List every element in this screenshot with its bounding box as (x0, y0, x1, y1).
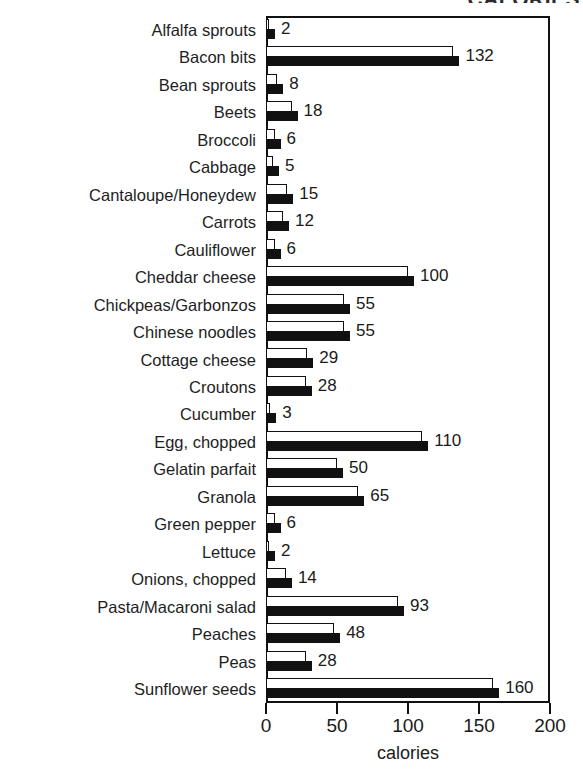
bar-value-label: 48 (346, 624, 365, 641)
bar-value-label: 5 (285, 157, 294, 174)
bar-group: 15 (266, 181, 550, 208)
bar-solid (266, 358, 313, 368)
bar-solid (266, 29, 275, 39)
bar-solid (266, 276, 414, 286)
bar-solid (266, 688, 499, 698)
bar-value-label: 6 (287, 240, 296, 257)
category-label: Onions, chopped (0, 571, 260, 588)
category-label: Cabbage (0, 159, 260, 176)
bar-solid (266, 633, 340, 643)
bar-solid (266, 606, 404, 616)
bar-group: 6 (266, 511, 550, 538)
bar-solid (266, 56, 459, 66)
bar-solid (266, 166, 279, 176)
bar-group: 110 (266, 428, 550, 455)
bar-value-label: 93 (410, 597, 429, 614)
category-label: Bean sprouts (0, 77, 260, 94)
bar-solid (266, 523, 281, 533)
category-label: Lettuce (0, 544, 260, 561)
bar-value-label: 3 (282, 404, 291, 421)
bar-value-label: 160 (505, 679, 533, 696)
bar-group: 55 (266, 291, 550, 318)
bar-group: 8 (266, 71, 550, 98)
category-label: Bacon bits (0, 49, 260, 66)
chart-page: CALORIES Alfalfa sproutsBacon bitsBean s… (0, 0, 583, 769)
bar-solid (266, 441, 428, 451)
bar-value-label: 2 (281, 542, 290, 559)
bar-value-label: 8 (289, 75, 298, 92)
category-label: Alfalfa sprouts (0, 22, 260, 39)
bar-solid (266, 84, 283, 94)
bar-value-label: 6 (287, 130, 296, 147)
bar-solid (266, 194, 293, 204)
category-label: Sunflower seeds (0, 681, 260, 698)
bar-group: 28 (266, 648, 550, 675)
category-label: Cantaloupe/Honeydew (0, 187, 260, 204)
chart-title-cropped: CALORIES (380, 0, 580, 3)
bar-group: 65 (266, 483, 550, 510)
bar-solid (266, 468, 343, 478)
bar-solid (266, 661, 312, 671)
category-label: Cottage cheese (0, 352, 260, 369)
x-axis-title: calories (266, 744, 550, 762)
bar-group: 12 (266, 208, 550, 235)
category-label: Broccoli (0, 132, 260, 149)
category-label: Croutons (0, 379, 260, 396)
category-label: Green pepper (0, 516, 260, 533)
bar-group: 50 (266, 456, 550, 483)
category-label: Chinese noodles (0, 324, 260, 341)
bar-group: 100 (266, 263, 550, 290)
bar-value-label: 28 (318, 652, 337, 669)
category-label: Egg, chopped (0, 434, 260, 451)
x-tick (478, 703, 480, 714)
bar-value-label: 100 (420, 267, 448, 284)
bar-value-label: 6 (287, 514, 296, 531)
bar-solid (266, 496, 364, 506)
bar-group: 28 (266, 373, 550, 400)
bar-solid (266, 304, 350, 314)
bar-value-label: 55 (356, 322, 375, 339)
bar-value-label: 55 (356, 295, 375, 312)
category-label: Cucumber (0, 406, 260, 423)
bar-solid (266, 249, 281, 259)
bar-value-label: 18 (304, 102, 323, 119)
bar-value-label: 110 (434, 432, 461, 449)
bars-layer: 2132818651512610055552928311050656214934… (266, 16, 550, 703)
bar-solid (266, 578, 292, 588)
bar-value-label: 29 (319, 349, 338, 366)
x-tick (407, 703, 409, 714)
x-tick (549, 703, 551, 714)
bar-group: 5 (266, 153, 550, 180)
bar-solid (266, 551, 275, 561)
category-label: Cheddar cheese (0, 269, 260, 286)
bar-value-label: 14 (298, 569, 317, 586)
bar-group: 29 (266, 346, 550, 373)
bar-group: 6 (266, 236, 550, 263)
x-tick (265, 703, 267, 714)
bar-group: 132 (266, 43, 550, 70)
bar-group: 93 (266, 593, 550, 620)
bar-solid (266, 331, 350, 341)
bar-group: 55 (266, 318, 550, 345)
x-tick (336, 703, 338, 714)
x-tick-label: 150 (463, 716, 495, 735)
x-tick-label: 200 (534, 716, 566, 735)
bar-group: 160 (266, 676, 550, 703)
category-label: Granola (0, 489, 260, 506)
bar-value-label: 2 (281, 20, 290, 37)
category-label: Beets (0, 104, 260, 121)
bar-solid (266, 139, 281, 149)
bar-solid (266, 413, 276, 423)
bar-solid (266, 386, 312, 396)
category-label: Peaches (0, 626, 260, 643)
bar-group: 2 (266, 16, 550, 43)
bar-value-label: 28 (318, 377, 337, 394)
bar-solid (266, 221, 289, 231)
bar-value-label: 50 (349, 459, 368, 476)
bar-group: 14 (266, 566, 550, 593)
bar-value-label: 15 (299, 185, 318, 202)
bar-group: 6 (266, 126, 550, 153)
x-tick-label: 0 (261, 716, 272, 735)
category-label: Peas (0, 654, 260, 671)
x-tick-label: 100 (392, 716, 424, 735)
